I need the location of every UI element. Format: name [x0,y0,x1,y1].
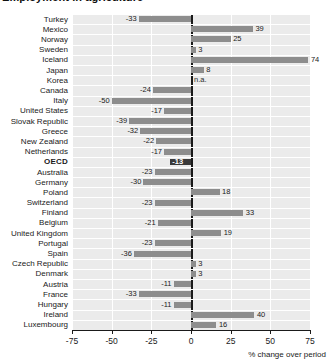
value-label: -33 [124,15,137,23]
value-labels-layer: -3339253748n.a.-24-50-17-39-32-22-17-13-… [0,14,330,330]
axis-tick [310,330,311,334]
axis-tick-label: -50 [106,336,118,346]
x-axis-title: % change over period [248,350,326,359]
value-label: 39 [255,25,263,33]
value-label: -13 [172,158,183,166]
axis-tick [72,330,73,334]
value-label: 19 [224,229,232,237]
value-label: 40 [257,311,265,319]
axis-tick-label: 0 [189,336,194,346]
axis-tick [151,330,152,334]
value-label: 74 [311,56,319,64]
value-label: -23 [140,168,153,176]
value-label: -24 [138,86,151,94]
value-label: 25 [233,35,241,43]
value-label: 3 [198,260,202,268]
value-label: -33 [124,290,137,298]
value-label: -39 [114,117,127,125]
value-label-na: n.a. [194,76,207,84]
x-axis-tick-labels: -75-50-250255075 [0,336,330,348]
axis-tick [112,330,113,334]
axis-tick-label: 50 [266,336,275,346]
value-label: 33 [246,209,254,217]
axis-tick [191,330,192,334]
value-label: 3 [198,270,202,278]
chart-title-clipped: Employment in agriculture [0,0,330,3]
value-label: -11 [159,301,172,309]
value-label: -30 [128,178,141,186]
value-label: -17 [149,107,162,115]
value-label: 8 [206,66,210,74]
value-label: -50 [97,97,110,105]
value-label: -11 [159,280,172,288]
axis-tick-label: -25 [145,336,157,346]
axis-tick [270,330,271,334]
value-label: 3 [198,46,202,54]
chart-title: Employment in agriculture [0,0,330,3]
value-label: -23 [140,199,153,207]
value-label: -36 [119,250,132,258]
bar-chart: Employment in agriculture TurkeyMexicoNo… [0,0,330,362]
value-label: -17 [149,148,162,156]
axis-tick-label: -75 [66,336,78,346]
axis-tick [231,330,232,334]
axis-tick-label: 75 [305,336,314,346]
value-label: -22 [141,137,154,145]
value-label: -21 [143,219,156,227]
value-label: -23 [140,239,153,247]
value-label: 16 [219,321,227,329]
value-label: -32 [125,127,138,135]
value-label: 18 [222,188,230,196]
axis-tick-label: 25 [226,336,235,346]
